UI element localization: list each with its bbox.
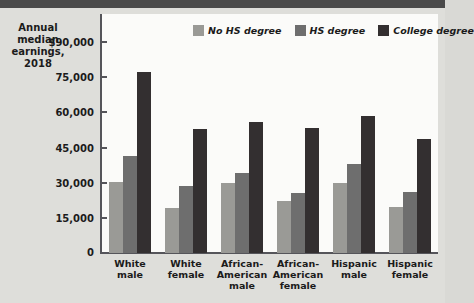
bar[interactable] xyxy=(193,129,207,253)
x-axis-category-label-line: American xyxy=(214,269,270,280)
x-axis-category-label-line: African- xyxy=(214,258,270,269)
legend-swatch-icon xyxy=(378,25,389,36)
bar[interactable] xyxy=(235,173,249,253)
bar[interactable] xyxy=(291,193,305,253)
chart-title-line-1: Annual xyxy=(2,22,74,34)
bar[interactable] xyxy=(347,164,361,253)
y-axis-tick-label-zero: 0 xyxy=(74,247,94,258)
bar[interactable] xyxy=(249,122,263,253)
x-axis-category-label: Whitemale xyxy=(102,258,158,291)
x-axis-category-label: Whitefemale xyxy=(158,258,214,291)
x-axis-category-label-line: female xyxy=(158,269,214,280)
bar[interactable] xyxy=(277,201,291,253)
x-axis-category-label-line: Hispanic xyxy=(326,258,382,269)
x-axis-category-label-line: African- xyxy=(270,258,326,269)
bar-group xyxy=(326,14,382,253)
legend-swatch-icon xyxy=(295,25,306,36)
bar[interactable] xyxy=(109,182,123,254)
bar[interactable] xyxy=(221,183,235,253)
y-axis-tick-label: 15,000 xyxy=(36,212,94,223)
legend-item[interactable]: No HS degree xyxy=(193,25,282,36)
legend-label: No HS degree xyxy=(208,25,282,36)
chart-legend: No HS degreeHS degreeCollege degree xyxy=(193,25,474,36)
bar-group xyxy=(214,14,270,253)
y-axis-tick-label: $90,000 xyxy=(36,37,94,48)
top-decorative-band xyxy=(0,0,445,8)
x-axis-category-label: African-Americanfemale xyxy=(270,258,326,291)
x-axis-category-label: Hispanicmale xyxy=(326,258,382,291)
chart-title-line-4: 2018 xyxy=(2,58,74,70)
x-axis-category-label-line: White xyxy=(102,258,158,269)
bar-groups xyxy=(102,14,438,253)
bar[interactable] xyxy=(361,116,375,253)
y-axis-tick-label: 60,000 xyxy=(36,107,94,118)
bar[interactable] xyxy=(389,207,403,253)
bar-group xyxy=(158,14,214,253)
legend-item[interactable]: College degree xyxy=(378,25,474,36)
x-axis-category-label-line: male xyxy=(326,269,382,280)
x-axis-labels: WhitemaleWhitefemaleAfrican-Americanmale… xyxy=(102,258,438,291)
legend-swatch-icon xyxy=(193,25,204,36)
bar-group xyxy=(270,14,326,253)
y-axis-tick-label: 30,000 xyxy=(36,177,94,188)
bar[interactable] xyxy=(179,186,193,253)
bar[interactable] xyxy=(165,208,179,253)
x-axis-category-label-line: female xyxy=(382,269,438,280)
x-axis-category-label: African-Americanmale xyxy=(214,258,270,291)
x-axis-category-label-line: female xyxy=(270,280,326,291)
bar[interactable] xyxy=(417,139,431,253)
x-axis-category-label-line: American xyxy=(270,269,326,280)
bar[interactable] xyxy=(403,192,417,253)
y-axis-tick-label: 45,000 xyxy=(36,142,94,153)
x-axis-category-label-line: White xyxy=(158,258,214,269)
x-axis-category-label-line: male xyxy=(102,269,158,280)
bar[interactable] xyxy=(123,156,137,253)
bar[interactable] xyxy=(137,72,151,253)
x-axis-category-label: Hispanicfemale xyxy=(382,258,438,291)
bar[interactable] xyxy=(333,183,347,253)
x-axis-category-label-line: male xyxy=(214,280,270,291)
legend-label: College degree xyxy=(393,25,474,36)
bar-group xyxy=(102,14,158,253)
y-axis-tick-label: 75,000 xyxy=(36,72,94,83)
x-axis-category-label-line: Hispanic xyxy=(382,258,438,269)
chart-title-line-3: earnings, xyxy=(2,46,74,58)
legend-label: HS degree xyxy=(310,25,366,36)
bar[interactable] xyxy=(305,128,319,253)
legend-item[interactable]: HS degree xyxy=(295,25,366,36)
bar-group xyxy=(382,14,438,253)
